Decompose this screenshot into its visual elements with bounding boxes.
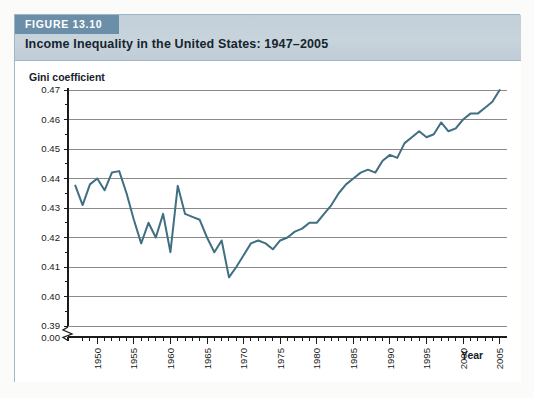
x-tick-label: 2005 bbox=[494, 348, 505, 369]
figure-number-badge: FIGURE 13.10 bbox=[15, 15, 119, 34]
x-tick-label: 1980 bbox=[311, 348, 322, 369]
axes: 0.00 bbox=[41, 88, 507, 343]
y-tick-label: 0.47 bbox=[41, 84, 60, 95]
x-tick-label: 1960 bbox=[165, 348, 176, 369]
x-ticks: 1950195519601965197019751980198519901995… bbox=[83, 337, 506, 369]
x-tick-label: 1970 bbox=[238, 348, 249, 369]
figure-root: FIGURE 13.10 Income Inequality in the Un… bbox=[0, 0, 534, 398]
y-tick-label: 0.39 bbox=[41, 320, 60, 331]
x-tick-label: 1975 bbox=[275, 348, 286, 369]
x-tick-label: 1965 bbox=[202, 348, 213, 369]
x-tick-label: 2000 bbox=[458, 348, 469, 369]
y-tick-label: 0.45 bbox=[41, 143, 60, 154]
y-tick-label: 0.43 bbox=[41, 202, 60, 213]
y-tick-label-zero: 0.00 bbox=[41, 332, 60, 343]
y-tick-label: 0.46 bbox=[41, 114, 60, 125]
y-tick-label: 0.44 bbox=[41, 173, 60, 184]
x-tick-label: 1955 bbox=[128, 348, 139, 369]
plot-area: Gini coefficient Year 0.470.460.450.440.… bbox=[15, 61, 521, 382]
x-tick-label: 1990 bbox=[385, 348, 396, 369]
y-tick-label: 0.40 bbox=[41, 291, 60, 302]
line-chart: 0.470.460.450.440.430.420.410.400.390.00… bbox=[15, 61, 521, 382]
figure-header: FIGURE 13.10 Income Inequality in the Un… bbox=[15, 15, 521, 61]
x-tick-label: 1985 bbox=[348, 348, 359, 369]
figure-title: Income Inequality in the United States: … bbox=[25, 37, 328, 51]
x-tick-label: 1995 bbox=[421, 348, 432, 369]
gridlines: 0.470.460.450.440.430.420.410.400.39 bbox=[41, 84, 507, 331]
y-tick-label: 0.42 bbox=[41, 232, 60, 243]
figure-box: FIGURE 13.10 Income Inequality in the Un… bbox=[14, 14, 520, 382]
y-tick-label: 0.41 bbox=[41, 261, 60, 272]
x-tick-label: 1950 bbox=[92, 348, 103, 369]
gini-coefficient-line bbox=[75, 90, 499, 277]
